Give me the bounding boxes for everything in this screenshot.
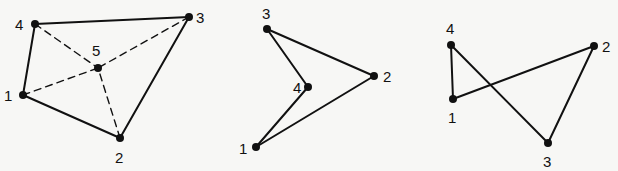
node-label: 4 xyxy=(293,79,301,96)
node-label: 5 xyxy=(92,42,100,59)
node-1 xyxy=(252,143,260,151)
node-4 xyxy=(31,20,39,28)
node-label: 4 xyxy=(446,20,454,37)
node-label: 1 xyxy=(448,109,456,126)
node-5 xyxy=(94,64,102,72)
node-2 xyxy=(370,72,378,80)
node-label: 3 xyxy=(543,153,551,170)
node-label: 3 xyxy=(262,5,270,22)
edge-1-2 xyxy=(23,95,120,138)
node-label: 1 xyxy=(4,87,12,104)
node-1 xyxy=(449,95,457,103)
figure-quad-with-center: 12345 xyxy=(4,9,204,166)
node-4 xyxy=(447,41,455,49)
node-label: 4 xyxy=(15,16,23,33)
node-label: 2 xyxy=(115,149,123,166)
figure-self-intersecting-quad: 1234 xyxy=(446,20,610,170)
edge-4-1 xyxy=(256,87,308,147)
node-label: 3 xyxy=(196,9,204,26)
node-3 xyxy=(185,13,193,21)
node-4 xyxy=(304,83,312,91)
edge-2-5 xyxy=(98,68,120,138)
edge-2-3 xyxy=(120,17,189,138)
node-label: 2 xyxy=(602,38,610,55)
figure-concave-quad: 1234 xyxy=(239,5,391,157)
node-2 xyxy=(116,134,124,142)
node-label: 1 xyxy=(239,140,247,157)
edge-3-4 xyxy=(35,17,189,24)
edge-4-1 xyxy=(23,24,35,95)
edge-4-1 xyxy=(451,45,453,99)
polygon-diagrams: 1234512341234 xyxy=(0,0,618,171)
edge-4-5 xyxy=(35,24,98,68)
node-3 xyxy=(544,139,552,147)
edge-1-5 xyxy=(23,68,98,95)
edge-1-2 xyxy=(256,76,374,147)
node-3 xyxy=(263,25,271,33)
node-label: 2 xyxy=(383,68,391,85)
node-1 xyxy=(19,91,27,99)
node-2 xyxy=(590,42,598,50)
